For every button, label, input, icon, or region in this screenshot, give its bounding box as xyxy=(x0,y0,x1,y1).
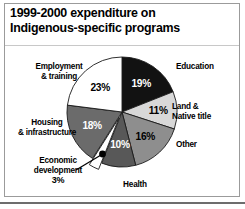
slice-label-other: Other xyxy=(176,140,222,150)
pie-slice-value-health: 10% xyxy=(110,139,130,150)
slice-label-health: Health xyxy=(110,180,160,190)
slice-value-economic-development: 3% xyxy=(24,175,92,186)
slice-label-economic-development: Economic development 3% xyxy=(24,156,92,186)
slice-label-land-native-title-line1: Land & xyxy=(172,102,199,111)
pie-slice-value-other: 16% xyxy=(136,131,156,142)
slice-label-land-native-title: Land & Native title xyxy=(172,102,242,121)
economic-development-marker-dot xyxy=(99,151,106,158)
slice-label-economic-development-line2: development xyxy=(34,166,82,175)
slice-label-employment-training-line1: Employment xyxy=(35,62,82,71)
slice-label-education: Education xyxy=(176,62,238,72)
slice-label-housing-infrastructure-line1: Housing xyxy=(31,118,62,127)
slice-label-economic-development-line1: Economic xyxy=(39,156,77,165)
slice-label-employment-training-line2: & training xyxy=(41,72,77,81)
bottom-divider xyxy=(0,202,245,204)
figure-panel: 1999-2000 expenditure on Indigenous-spec… xyxy=(0,0,245,209)
slice-label-housing-infrastructure: Housing & infrastructure xyxy=(4,118,90,137)
pie-slice-value-employment-training: 23% xyxy=(90,82,110,93)
slice-label-land-native-title-line2: Native title xyxy=(172,112,211,121)
slice-label-employment-training: Employment & training xyxy=(22,62,96,81)
pie-slice-value-education: 19% xyxy=(131,78,151,89)
slice-label-housing-infrastructure-line2: & infrastructure xyxy=(18,128,76,137)
pie-slice-value-land-native-title: 11% xyxy=(149,105,168,116)
